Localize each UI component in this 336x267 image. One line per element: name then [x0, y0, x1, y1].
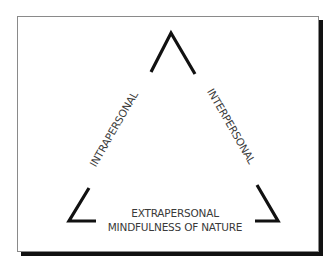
label-interpersonal: INTERPERSONAL	[205, 86, 258, 166]
triangle-bottom-left-corner	[69, 188, 96, 221]
triangle-apex	[151, 33, 195, 74]
label-extrapersonal: EXTRAPERSONAL	[131, 207, 219, 219]
label-intrapersonal: INTRAPERSONAL	[87, 89, 140, 169]
triangle-diagram: INTRAPERSONAL INTERPERSONAL EXTRAPERSONA…	[0, 0, 336, 267]
label-mindfulness-of-nature: MINDFULNESS OF NATURE	[108, 221, 243, 233]
triangle-strokes	[69, 33, 278, 221]
triangle-bottom-right-corner	[255, 185, 278, 221]
